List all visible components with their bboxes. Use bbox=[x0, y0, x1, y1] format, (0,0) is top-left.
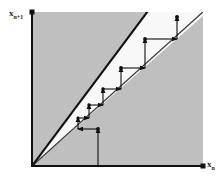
iterate-dot bbox=[76, 116, 79, 119]
x-axis-label-sub: n bbox=[212, 165, 215, 171]
iterate-dot bbox=[101, 87, 105, 91]
iterate-dot bbox=[143, 37, 147, 41]
x-axis-label: xn bbox=[207, 160, 215, 171]
y-axis-label-sub: n+1 bbox=[14, 14, 24, 20]
iterate-dot bbox=[87, 103, 90, 106]
iterate-dot bbox=[175, 15, 179, 19]
iterate-dot bbox=[96, 127, 100, 131]
figure-container: xn+1 xn bbox=[0, 0, 223, 182]
iterate-dot bbox=[119, 66, 123, 70]
y-axis-cap bbox=[30, 10, 35, 15]
x-axis-cap bbox=[201, 164, 206, 169]
cobweb-plot bbox=[0, 0, 223, 182]
y-axis-label: xn+1 bbox=[9, 9, 23, 20]
